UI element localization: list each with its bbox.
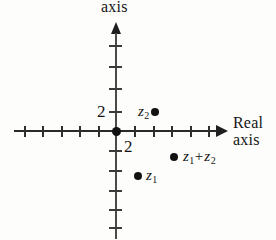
complex-plane-figure: axis Real axis 2 2 z2 z1+z2 z1 xyxy=(0,0,276,240)
point-label-z2: z2 xyxy=(138,104,149,120)
point-label-z1: z1 xyxy=(146,168,157,184)
real-axis-tick xyxy=(24,126,26,137)
imaginary-axis-tick xyxy=(109,66,122,68)
real-axis-title-line2: axis xyxy=(233,132,260,149)
point-label-z2-subscript: 2 xyxy=(144,110,149,121)
real-axis-tick xyxy=(61,126,63,137)
imaginary-axis-title: axis xyxy=(101,0,128,16)
imaginary-axis-tick xyxy=(109,88,122,90)
point-dot-z1 xyxy=(134,172,142,180)
point-dot-z2 xyxy=(151,108,159,116)
real-axis-tick xyxy=(208,126,210,137)
imaginary-axis-tick xyxy=(109,209,122,211)
point-label-z1-subscript: 1 xyxy=(152,174,157,185)
real-axis-tick-label-2: 2 xyxy=(124,138,133,156)
point-label-z1-plus-z2-subscript2: 2 xyxy=(211,155,216,166)
point-label-z1-base: z xyxy=(146,167,152,183)
real-axis-tick xyxy=(42,126,44,137)
imaginary-axis-tick-label-2: 2 xyxy=(97,103,106,121)
real-axis-tick xyxy=(171,126,173,137)
point-label-z1-plus-z2-subscript1: 1 xyxy=(189,155,194,166)
point-label-z1-plus-z2: z1+z2 xyxy=(183,149,215,165)
real-axis-tick xyxy=(79,126,81,137)
imaginary-axis-tick xyxy=(109,150,122,152)
point-label-z1-plus-z2-base1: z xyxy=(183,148,189,164)
origin-point xyxy=(112,127,121,136)
point-label-plus-operator: + xyxy=(194,148,204,164)
real-axis-title-line1: Real xyxy=(233,115,263,132)
real-axis-tick xyxy=(98,126,100,137)
real-axis-tick xyxy=(190,126,192,137)
imaginary-axis-tick xyxy=(109,227,122,229)
point-dot-z1-plus-z2 xyxy=(170,153,178,161)
imaginary-axis-tick xyxy=(109,190,122,192)
real-axis-tick xyxy=(153,126,155,137)
point-label-z1-plus-z2-base2: z xyxy=(204,148,210,164)
imaginary-axis-tick xyxy=(109,111,122,113)
point-label-z2-base: z xyxy=(138,103,144,119)
real-axis-arrowhead-icon xyxy=(216,125,228,137)
real-axis-tick xyxy=(134,126,136,137)
imaginary-axis-tick xyxy=(109,170,122,172)
imaginary-axis-tick xyxy=(109,45,122,47)
